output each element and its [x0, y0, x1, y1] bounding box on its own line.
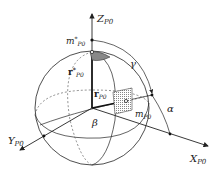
gamma-label: γ	[130, 58, 136, 69]
point-y-equator	[43, 135, 46, 138]
r-star-label: r*P0	[68, 66, 84, 78]
beta-label: β	[91, 117, 98, 128]
z-axis-label: ZP0	[96, 13, 114, 26]
point-m	[124, 99, 127, 102]
sphere-diagram: ZP0 XP0 YP0 m*P0 mP0 r*P0 rP0 γ α β	[0, 0, 218, 178]
y-axis-label: YP0	[8, 135, 24, 148]
point-m-star-outer	[90, 38, 93, 41]
point-x-equator	[169, 133, 172, 136]
point-m-star	[90, 50, 93, 53]
m-star-label: m*P0	[66, 35, 86, 47]
alpha-label: α	[167, 103, 174, 114]
r-label: rP0	[94, 89, 107, 100]
point-gc	[151, 94, 154, 97]
meridian-front	[92, 52, 116, 165]
gamma-arc	[92, 40, 152, 93]
y-axis	[20, 108, 92, 150]
x-axis-label: XP0	[189, 153, 207, 166]
surface-patch	[113, 88, 132, 114]
